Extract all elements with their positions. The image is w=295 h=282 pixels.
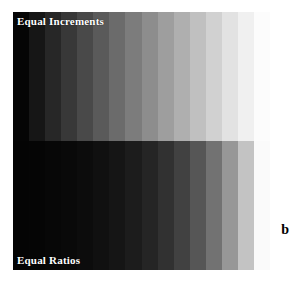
wedge-step <box>61 12 77 141</box>
wedge-step <box>254 12 270 141</box>
wedge-step <box>13 12 29 141</box>
wedge-step <box>190 12 206 141</box>
wedge-step <box>45 12 61 141</box>
wedge-step <box>254 141 270 270</box>
wedge-step <box>45 141 61 270</box>
wedge-step <box>158 141 174 270</box>
wedge-step <box>142 12 158 141</box>
equal-ratios-strip <box>13 141 270 270</box>
wedge-step <box>61 141 77 270</box>
wedge-step <box>222 12 238 141</box>
wedge-step <box>77 141 93 270</box>
wedge-step <box>206 141 222 270</box>
wedge-step <box>77 12 93 141</box>
wedge-step <box>93 12 109 141</box>
figure-panel-letter: b <box>281 222 289 238</box>
wedge-step <box>125 141 141 270</box>
wedge-step <box>222 141 238 270</box>
wedge-step <box>109 12 125 141</box>
wedge-step <box>29 141 45 270</box>
wedge-step <box>29 12 45 141</box>
wedge-step <box>190 141 206 270</box>
wedge-step <box>174 12 190 141</box>
equal-increments-strip <box>13 12 270 141</box>
wedge-step <box>142 141 158 270</box>
wedge-step <box>13 141 29 270</box>
wedge-step <box>238 12 254 141</box>
figure-root: Equal Increments Equal Ratios b <box>0 0 295 282</box>
wedge-step <box>109 141 125 270</box>
grayscale-wedge-panel: Equal Increments Equal Ratios <box>13 12 270 270</box>
wedge-step <box>125 12 141 141</box>
wedge-step <box>158 12 174 141</box>
wedge-step <box>238 141 254 270</box>
wedge-step <box>206 12 222 141</box>
wedge-step <box>93 141 109 270</box>
wedge-step <box>174 141 190 270</box>
